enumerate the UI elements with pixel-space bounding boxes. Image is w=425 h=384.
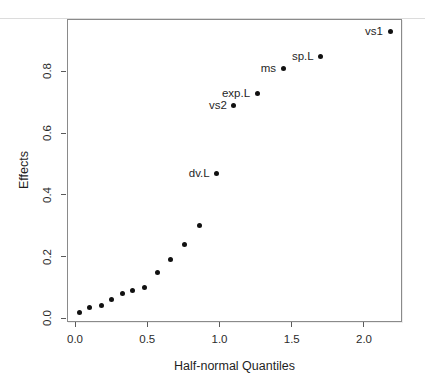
data-point-label: exp.L (222, 86, 250, 100)
data-point (318, 54, 323, 59)
data-point (281, 66, 286, 71)
plot-frame (67, 19, 402, 322)
x-axis-title: Half-normal Quantiles (67, 359, 402, 373)
data-point-label: ms (261, 61, 276, 75)
data-point (197, 223, 202, 228)
data-point (214, 171, 219, 176)
y-axis-tick (61, 133, 66, 134)
data-point-label: vs2 (209, 98, 227, 112)
y-axis-tick-label: 0.8 (40, 56, 54, 86)
y-axis-tick (61, 256, 66, 257)
data-point (109, 297, 114, 302)
y-axis-tick (61, 318, 66, 319)
y-axis-tick (61, 194, 66, 195)
data-point-label: vs1 (365, 24, 383, 38)
x-axis-tick (219, 322, 220, 327)
x-axis-tick-label: 0.5 (132, 332, 162, 346)
halfnormal-plot-figure: 0.00.51.01.52.00.00.20.40.60.8dv.Lvs2exp… (0, 0, 425, 384)
x-axis-tick-label: 0.0 (60, 332, 90, 346)
data-point (155, 270, 160, 275)
x-axis-tick (75, 322, 76, 327)
y-axis-tick-label: 0.2 (40, 242, 54, 272)
data-point (87, 305, 92, 310)
y-axis-tick (61, 71, 66, 72)
data-point-label: dv.L (189, 166, 210, 180)
x-axis-tick-label: 1.5 (277, 332, 307, 346)
y-axis-title: Effects (17, 3, 31, 338)
data-point (388, 29, 393, 34)
x-axis-tick (363, 322, 364, 327)
x-axis-tick (291, 322, 292, 327)
y-axis-tick-label: 0.6 (40, 118, 54, 148)
data-point-label: sp.L (292, 49, 314, 63)
x-axis-tick-label: 2.0 (349, 332, 379, 346)
data-point (255, 91, 260, 96)
x-axis-tick-label: 1.0 (205, 332, 235, 346)
y-axis-tick-label: 0.4 (40, 180, 54, 210)
data-point (77, 310, 82, 315)
y-axis-tick-label: 0.0 (40, 303, 54, 333)
data-point (142, 285, 147, 290)
x-axis-tick (147, 322, 148, 327)
